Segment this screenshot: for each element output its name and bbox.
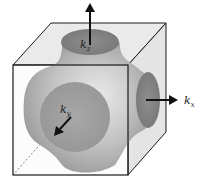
kx-arrow-head-icon [169, 95, 178, 105]
kx-label: kx [184, 94, 195, 109]
cube-front-face [13, 65, 128, 175]
kz-arrow-head-icon [85, 3, 95, 12]
fermi-surface-diagram: kz kx ky [0, 0, 201, 184]
